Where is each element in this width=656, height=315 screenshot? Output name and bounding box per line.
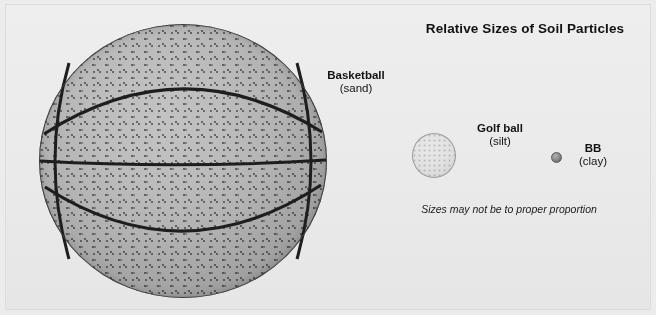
basketball-particle-label: (sand) xyxy=(310,82,402,95)
basketball-icon xyxy=(39,24,327,298)
bb-sphere-fill xyxy=(551,152,562,163)
basketball-outline xyxy=(39,24,327,298)
golf-ball-icon xyxy=(412,133,456,178)
label-bb: BB (clay) xyxy=(565,142,621,168)
label-basketball: Basketball (sand) xyxy=(310,69,402,95)
golf-ball-particle-label: (silt) xyxy=(455,135,545,148)
golf-ball-object-label: Golf ball xyxy=(455,122,545,135)
bb-particle-label: (clay) xyxy=(565,155,621,168)
bb-object-label: BB xyxy=(565,142,621,155)
bb-pellet-icon xyxy=(551,152,562,163)
label-golf-ball: Golf ball (silt) xyxy=(455,122,545,148)
basketball-object-label: Basketball xyxy=(310,69,402,82)
proportion-disclaimer: Sizes may not be to proper proportion xyxy=(404,203,614,215)
page-title: Relative Sizes of Soil Particles xyxy=(412,21,638,36)
soil-particle-size-figure: Relative Sizes of Soil Particles Basketb… xyxy=(0,0,656,315)
golf-ball-dimple-texture xyxy=(413,134,455,177)
